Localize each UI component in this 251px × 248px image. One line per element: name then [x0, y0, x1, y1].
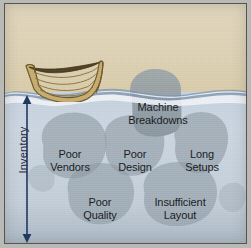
inventory-arrow-head-bottom [23, 234, 32, 243]
boat-plank-2 [35, 73, 97, 84]
rock-label-machine-breakdowns: Machine Breakdowns [115, 101, 201, 126]
boat-plank-3 [37, 80, 95, 91]
rock-label-poor-design: Poor Design [100, 148, 170, 173]
boat [23, 56, 105, 102]
rock-label-poor-quality: Poor Quality [65, 196, 135, 221]
rock-label-insufficient-layout: Insufficient Layout [139, 196, 221, 221]
rock-shape-background-right [219, 183, 246, 212]
inventory-label: Inventory [17, 95, 29, 205]
boat-interior [29, 62, 100, 73]
rock-label-long-setups: Long Setups [168, 148, 236, 173]
rock-label-poor-vendors: Poor Vendors [33, 148, 107, 173]
inventory-rocks-figure: Machine Breakdowns Poor Vendors Poor Des… [4, 3, 247, 244]
